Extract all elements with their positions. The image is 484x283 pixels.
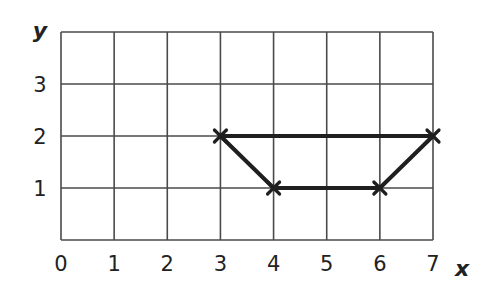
x-tick-label: 3 bbox=[214, 252, 227, 276]
x-tick-label: 0 bbox=[54, 252, 67, 276]
y-tick-label: 1 bbox=[33, 177, 46, 201]
y-axis-label: y bbox=[33, 18, 49, 43]
y-tick-label: 2 bbox=[33, 125, 46, 149]
x-tick-label: 7 bbox=[426, 252, 439, 276]
x-axis-label: x bbox=[454, 256, 470, 281]
x-tick-label: 1 bbox=[107, 252, 120, 276]
x-tick-label: 6 bbox=[373, 252, 386, 276]
x-tick-label: 5 bbox=[320, 252, 333, 276]
y-axis-tick-labels: 123 bbox=[33, 73, 46, 201]
x-axis-tick-labels: 01234567 bbox=[54, 252, 439, 276]
x-tick-label: 4 bbox=[267, 252, 280, 276]
coordinate-grid-chart: 01234567 123 x y bbox=[0, 0, 484, 283]
y-tick-label: 3 bbox=[33, 73, 46, 97]
x-tick-label: 2 bbox=[161, 252, 174, 276]
